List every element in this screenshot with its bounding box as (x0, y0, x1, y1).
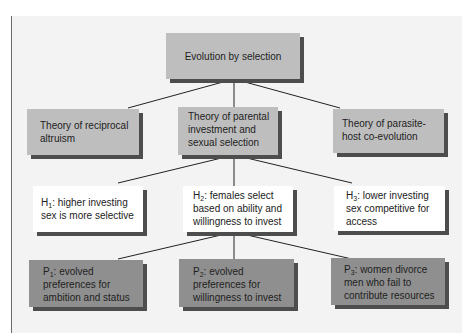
hypothesis-text: H2: females select based on ability and … (193, 189, 289, 228)
prediction-prefix: P (193, 266, 200, 277)
hypothesis-h3: H3: lower investing sex competitive for … (334, 186, 445, 231)
prediction-text: P1: evolved preferences for ambition and… (43, 265, 131, 304)
hypothesis-label: : females select based on ability and wi… (193, 190, 282, 227)
theory-parental-investment: Theory of parental investment and sexual… (178, 107, 278, 155)
prediction-label: : evolved preferences for willingness to… (193, 266, 281, 303)
hypothesis-h1: H1: higher investing sex is more selecti… (33, 186, 143, 232)
prediction-text: P3: women divorce men who fail to contri… (344, 263, 444, 302)
root-node: Evolution by selection (166, 33, 300, 79)
hypothesis-text: H3: lower investing sex competitive for … (346, 189, 436, 228)
hypothesis-label: : higher investing sex is more selective (41, 197, 134, 221)
theory-reciprocal-altruism: Theory of reciprocal altruism (27, 109, 139, 155)
theory-label: Theory of reciprocal altruism (40, 119, 130, 145)
prediction-text: P2: evolved preferences for willingness … (193, 265, 285, 304)
hypothesis-label: : lower investing sex competitive for ac… (346, 190, 429, 227)
connector-root-to-reciprocal (128, 79, 234, 108)
prediction-label: : evolved preferences for ambition and s… (43, 266, 130, 303)
connector-h2-to-p1 (118, 232, 234, 259)
prediction-p2: P2: evolved preferences for willingness … (179, 259, 294, 307)
hypothesis-h2: H2: females select based on ability and … (183, 186, 293, 232)
prediction-p1: P1: evolved preferences for ambition and… (29, 260, 143, 307)
prediction-label: : women divorce men who fail to contribu… (344, 264, 435, 301)
theory-parasite-host: Theory of parasite-host co-evolution (333, 109, 444, 153)
theory-label: Theory of parental investment and sexual… (188, 110, 276, 149)
prediction-p3: P3: women divorce men who fail to contri… (331, 258, 445, 305)
prediction-prefix: P (344, 264, 351, 275)
theory-label: Theory of parasite-host co-evolution (342, 117, 442, 143)
connector-parental-to-h3 (234, 155, 352, 183)
prediction-prefix: P (43, 266, 50, 277)
connector-root-to-parasite (234, 79, 340, 108)
hypothesis-text: H1: higher investing sex is more selecti… (41, 196, 141, 222)
connector-h2-to-p3 (234, 232, 352, 259)
root-label: Evolution by selection (185, 50, 282, 63)
connector-parental-to-h1 (118, 155, 234, 183)
